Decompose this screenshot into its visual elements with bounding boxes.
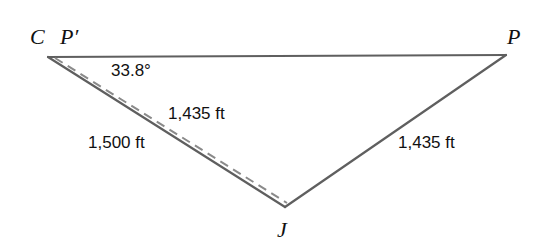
vertex-label-p: P — [507, 26, 520, 48]
length-label-right-segment: 1,435 ft — [398, 134, 455, 151]
angle-measure-label: 33.8° — [111, 62, 151, 79]
vertex-label-c: C — [30, 26, 45, 48]
triangle-figure — [0, 0, 557, 247]
segment-cp — [48, 55, 506, 57]
geometry-diagram: C P′ P J 33.8° 1,435 ft 1,500 ft 1,435 f… — [0, 0, 557, 247]
vertex-label-j: J — [277, 219, 287, 241]
segment-pj — [285, 55, 506, 207]
vertex-label-p-prime: P′ — [60, 26, 78, 48]
segment-cj — [48, 57, 285, 207]
segment-pprime-j-dashed — [55, 58, 287, 203]
length-label-dashed-segment: 1,435 ft — [168, 105, 225, 122]
length-label-solid-left-segment: 1,500 ft — [88, 134, 145, 151]
